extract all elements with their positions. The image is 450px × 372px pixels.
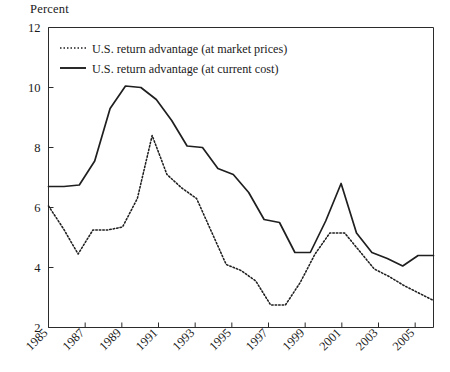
- x-tick-label: 2005: [390, 326, 418, 354]
- series-line-market-prices: [49, 136, 434, 306]
- x-tick-label: 1991: [133, 326, 161, 354]
- x-tick-label: 1993: [170, 326, 198, 354]
- x-tick-label: 1989: [96, 326, 124, 354]
- y-tick-label: 12: [28, 21, 41, 35]
- x-tick-label: 1995: [206, 326, 234, 354]
- data-series-group: [49, 86, 434, 305]
- y-axis-ticks: 24681012: [28, 21, 54, 335]
- x-tick-label: 2003: [353, 326, 381, 354]
- series-line-current-cost: [49, 86, 434, 266]
- x-tick-label: 1997: [243, 326, 271, 354]
- legend-label: U.S. return advantage (at current cost): [92, 62, 278, 76]
- chart-legend: U.S. return advantage (at market prices)…: [60, 42, 287, 76]
- y-tick-label: 6: [34, 201, 40, 215]
- y-tick-label: 4: [34, 261, 41, 275]
- y-tick-label: 10: [28, 81, 41, 95]
- x-tick-label: 2001: [316, 326, 344, 354]
- x-tick-label: 1985: [23, 326, 51, 354]
- x-tick-label: 1987: [60, 326, 88, 354]
- chart-container: Percent 24681012 19851987198919911993199…: [0, 0, 450, 372]
- legend-label: U.S. return advantage (at market prices): [92, 42, 287, 56]
- y-tick-label: 8: [34, 141, 40, 155]
- line-chart-plot: 24681012 1985198719891991199319951997199…: [0, 0, 450, 372]
- x-tick-label: 1999: [280, 326, 308, 354]
